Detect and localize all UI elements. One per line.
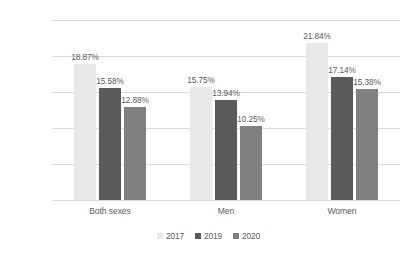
bar-2017[interactable] [306, 43, 328, 200]
x-axis-category-label: Both sexes [52, 206, 168, 216]
legend-item-2017[interactable]: 2017 [157, 231, 184, 241]
bar-value-label: 15.75% [187, 75, 215, 85]
legend-swatch-icon [157, 233, 163, 239]
legend-label: 2020 [242, 231, 260, 241]
bar-2017[interactable] [190, 87, 212, 200]
bar-value-label: 10.25% [237, 114, 265, 124]
plot-area: 18.87% 15.58% 12.88% 15.75% [52, 20, 400, 200]
bar-chart: 25.00% 20.00% 15.00% 10.00% 5.00% 0.00% … [0, 0, 417, 253]
legend-item-2019[interactable]: 2019 [195, 231, 222, 241]
axis-baseline [52, 200, 400, 201]
bar-value-label: 18.87% [71, 52, 99, 62]
bar-value-label: 17.14% [328, 65, 356, 75]
x-axis-category-label: Women [284, 206, 400, 216]
bar-value-label: 13.94% [212, 88, 240, 98]
bar-value-label: 12.88% [121, 95, 149, 105]
bar-2020[interactable] [124, 107, 146, 200]
legend-swatch-icon [233, 233, 239, 239]
bar-2019[interactable] [331, 77, 353, 200]
chart-legend: 2017 2019 2020 [0, 231, 417, 241]
legend-item-2020[interactable]: 2020 [233, 231, 260, 241]
bar-groups: 18.87% 15.58% 12.88% 15.75% [52, 20, 400, 200]
legend-swatch-icon [195, 233, 201, 239]
x-axis-category-label: Men [168, 206, 284, 216]
bar-group-women: 21.84% 17.14% 15.38% [306, 20, 398, 200]
bar-value-label: 15.38% [353, 77, 381, 87]
bar-2019[interactable] [215, 100, 237, 200]
bar-group-both-sexes: 18.87% 15.58% 12.88% [74, 20, 166, 200]
bar-2020[interactable] [356, 89, 378, 200]
legend-label: 2019 [204, 231, 222, 241]
bar-value-label: 15.58% [96, 76, 124, 86]
legend-label: 2017 [166, 231, 184, 241]
bar-2019[interactable] [99, 88, 121, 200]
bar-2020[interactable] [240, 126, 262, 200]
bar-2017[interactable] [74, 64, 96, 200]
bar-group-men: 15.75% 13.94% 10.25% [190, 20, 282, 200]
bar-value-label: 21.84% [303, 31, 331, 41]
